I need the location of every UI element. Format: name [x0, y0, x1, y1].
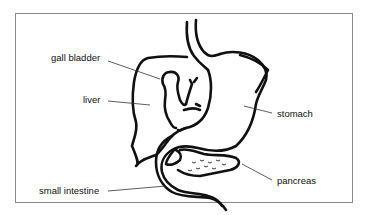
label-stomach: stomach [277, 109, 313, 119]
label-liver: liver [83, 95, 100, 105]
label-gall-bladder: gall bladder [51, 53, 100, 63]
leader-liver [108, 101, 150, 105]
leader-stomach [244, 106, 272, 113]
label-small-intestine: small intestine [39, 186, 99, 196]
pancreas [166, 149, 239, 176]
gall-bladder [162, 72, 200, 128]
leader-pancreas [242, 164, 272, 180]
leader-small-intestine [108, 186, 166, 191]
esophagus [187, 20, 220, 70]
label-pancreas: pancreas [277, 176, 316, 186]
